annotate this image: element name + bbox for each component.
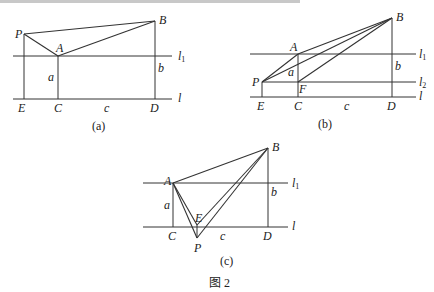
segment-PA	[24, 34, 58, 56]
label-C: C	[54, 101, 63, 115]
label-l1: l1	[292, 176, 299, 191]
diagram-a: P A B a b c E C D l1 l (a)	[13, 13, 185, 133]
label-l1: l1	[419, 47, 426, 62]
segment-FB	[298, 18, 392, 82]
label-D: D	[386, 99, 396, 113]
figure-caption: 图 2	[209, 276, 230, 290]
label-c: c	[220, 229, 226, 243]
label-C: C	[168, 229, 177, 243]
label-F: F	[298, 82, 307, 96]
label-E: E	[256, 99, 265, 113]
label-D: D	[149, 101, 159, 115]
label-c: c	[104, 101, 110, 115]
caption-c: (c)	[220, 254, 233, 268]
label-l: l	[292, 219, 296, 233]
label-a: a	[48, 70, 54, 84]
label-B: B	[159, 13, 167, 27]
label-b: b	[158, 61, 164, 75]
label-b: b	[271, 185, 277, 199]
label-P: P	[193, 241, 202, 255]
segment-AE	[173, 183, 197, 225]
label-B: B	[396, 10, 404, 24]
label-b: b	[395, 59, 401, 73]
segment-AP	[173, 183, 197, 238]
label-C: C	[294, 99, 303, 113]
label-D: D	[262, 229, 272, 243]
segment-AB	[298, 18, 392, 54]
label-a: a	[288, 65, 294, 79]
label-P: P	[14, 27, 23, 41]
label-l2: l2	[419, 75, 426, 90]
label-A: A	[163, 174, 172, 188]
label-E: E	[194, 211, 203, 225]
segment-PB	[262, 18, 392, 82]
label-P: P	[251, 75, 260, 89]
label-c: c	[344, 99, 350, 113]
label-l: l	[419, 89, 423, 103]
diagram-b: P A B a b F c E C D l1 l2 l (b)	[250, 10, 426, 131]
caption-a: (a)	[92, 119, 105, 133]
label-A: A	[289, 40, 298, 54]
caption-b: (b)	[318, 117, 332, 131]
segment-EB	[197, 148, 268, 225]
label-B: B	[272, 140, 280, 154]
label-l1: l1	[178, 49, 185, 64]
diagram-c: A B E P a b c C D l1 l (c)	[143, 140, 299, 268]
label-A: A	[55, 41, 64, 55]
figure-2: P A B a b c E C D l1 l (a) P A B a b F c…	[0, 0, 434, 292]
label-a: a	[164, 198, 170, 212]
label-E: E	[17, 101, 26, 115]
label-l: l	[178, 91, 182, 105]
segment-PB	[24, 21, 155, 34]
